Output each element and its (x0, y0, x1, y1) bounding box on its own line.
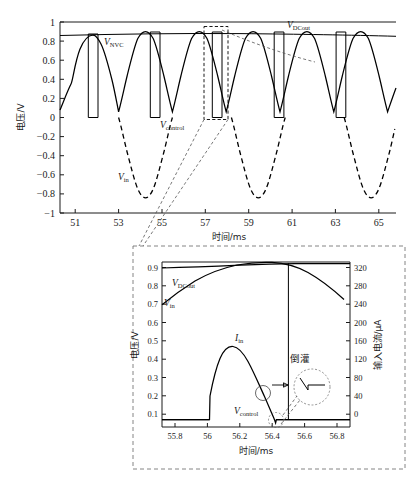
magnifier-leader-1 (283, 396, 297, 415)
main-xtick-7: 65 (374, 217, 384, 228)
label-vin: Vin (118, 172, 130, 183)
main-ytick-8: −0.6 (37, 169, 55, 180)
figure-svg: 1 0.8 0.6 0.4 0.2 0 −0.2 −0.4 −0.6 −0.8 … (0, 0, 408, 478)
backflow-detail-waveform (300, 378, 325, 390)
magnifier-leader-2 (281, 400, 300, 424)
inset-ytick-l-2: 0.7 (147, 299, 158, 309)
main-plot: 1 0.8 0.6 0.4 0.2 0 −0.2 −0.4 −0.6 −0.8 … (15, 17, 396, 243)
main-ytick-2: 0.6 (43, 55, 56, 66)
main-ytick-4: 0.2 (43, 93, 56, 104)
inset-yaxis-left-label: 电压/V (129, 331, 140, 359)
inset-ytick-l-4: 0.5 (147, 336, 158, 346)
main-ytick-7: −0.4 (37, 150, 55, 161)
main-xtick-0: 51 (70, 217, 80, 228)
main-ytick-6: −0.2 (37, 131, 55, 142)
main-xaxis-label: 时间/ms (212, 231, 247, 242)
inset-left-ticks: 0.9 0.8 0.7 0.6 0.5 0.4 0.3 0.2 0.1 (147, 263, 166, 420)
main-ytick-10: −1 (44, 208, 55, 219)
inset-ytick-l-6: 0.3 (147, 373, 158, 383)
inset-xtick-3: 56.4 (265, 431, 281, 441)
inset-x-ticks: 55.8 56 56.2 56.4 56.6 56.8 (168, 423, 345, 441)
main-ytick-9: −0.8 (37, 188, 55, 199)
main-ytick-3: 0.4 (43, 74, 56, 85)
inset-connector-lines (139, 120, 228, 247)
inset-ytick-l-1: 0.8 (147, 281, 158, 291)
label-vcontrol: Vcontrol (160, 120, 184, 131)
inset-ytick-l-7: 0.2 (147, 391, 158, 401)
figure-container: 1 0.8 0.6 0.4 0.2 0 −0.2 −0.4 −0.6 −0.8 … (0, 0, 408, 478)
inset-ytick-l-8: 0.1 (147, 409, 158, 419)
inset-ytick-r-2: 240 (354, 299, 367, 309)
inset-label-vin: Vin (164, 298, 176, 309)
series-vdcout-inset (162, 264, 350, 269)
inset-xtick-1: 56 (203, 431, 212, 441)
inset-annotation-backflow: 倒灌 (290, 353, 310, 364)
inset-xtick-0: 55.8 (168, 431, 183, 441)
main-ytick-0: 1 (50, 17, 55, 28)
main-xtick-4: 59 (244, 217, 254, 228)
inset-panel: 0.9 0.8 0.7 0.6 0.5 0.4 0.3 0.2 0.1 320 … (129, 246, 405, 469)
inset-xaxis-label: 时间/ms (239, 445, 274, 456)
main-xtick-6: 63 (330, 217, 340, 228)
main-ytick-5: 0 (50, 112, 55, 123)
inset-yaxis-right-label: 输入电流/μA (372, 319, 383, 371)
inset-ytick-l-5: 0.4 (147, 354, 158, 364)
inset-ytick-r-0: 320 (354, 263, 367, 273)
inset-ytick-r-4: 160 (354, 336, 367, 346)
main-yaxis-label: 电压/V (15, 103, 26, 131)
inset-xtick-5: 56.8 (330, 431, 345, 441)
inset-xtick-2: 56.2 (232, 431, 247, 441)
main-xtick-5: 61 (287, 217, 297, 228)
inset-xtick-4: 56.6 (297, 431, 312, 441)
inset-ytick-r-6: 80 (354, 373, 363, 383)
inset-ytick-r-7: 40 (354, 391, 363, 401)
backflow-magnifier-circle (294, 369, 330, 405)
inset-label-vdcout: VDCout (172, 278, 195, 289)
label-vnvc: VNVC (104, 37, 124, 48)
inset-right-ticks: 320 280 240 200 160 120 80 40 0 (346, 263, 367, 420)
main-x-ticks: 51 53 55 57 59 61 63 65 (70, 209, 384, 228)
inset-label-vcontrol: Vcontrol (234, 406, 258, 417)
inset-ytick-r-8: 0 (354, 409, 358, 419)
inset-ytick-l-3: 0.6 (147, 318, 158, 328)
inset-ytick-r-5: 120 (354, 354, 367, 364)
inset-ytick-l-0: 0.9 (147, 263, 158, 273)
inset-ytick-r-3: 200 (354, 318, 367, 328)
main-ytick-1: 0.8 (43, 36, 56, 47)
main-xtick-3: 57 (200, 217, 210, 228)
inset-label-iin: Iin (234, 333, 244, 344)
main-xtick-1: 53 (114, 217, 124, 228)
inset-ytick-r-1: 280 (354, 281, 367, 291)
